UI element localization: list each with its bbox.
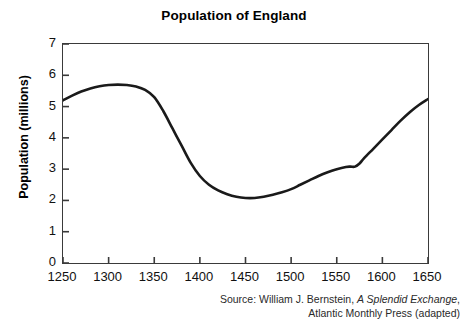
plot-area	[62, 43, 429, 264]
source-line-secondary: Atlantic Monthly Press (adapted)	[160, 306, 460, 320]
y-axis-tick-label: 5	[16, 99, 56, 112]
y-axis-tick-label: 2	[16, 192, 56, 205]
source-line-primary: Source: William J. Bernstein, A Splendid…	[160, 292, 460, 306]
source-note: Source: William J. Bernstein, A Splendid…	[160, 292, 460, 320]
source-book-title: A Splendid Exchange	[357, 293, 457, 305]
x-axis-ticks	[63, 257, 428, 263]
y-axis-tick-label: 0	[16, 255, 56, 268]
y-axis-tick-label: 6	[16, 67, 56, 80]
y-axis-tick-label: 7	[16, 36, 56, 49]
y-axis-tick-label: 4	[16, 130, 56, 143]
y-axis-ticks	[63, 44, 69, 263]
x-axis-tick-label: 1650	[397, 270, 457, 283]
source-prefix: Source: William J. Bernstein,	[220, 293, 357, 305]
population-line-series	[63, 85, 428, 198]
y-axis-tick-label: 1	[16, 224, 56, 237]
y-axis-tick-label: 3	[16, 161, 56, 174]
chart-title: Population of England	[0, 8, 468, 23]
source-suffix: ,	[457, 293, 460, 305]
plot-svg	[63, 44, 428, 263]
chart-figure: Population of England Population (millio…	[0, 0, 468, 333]
